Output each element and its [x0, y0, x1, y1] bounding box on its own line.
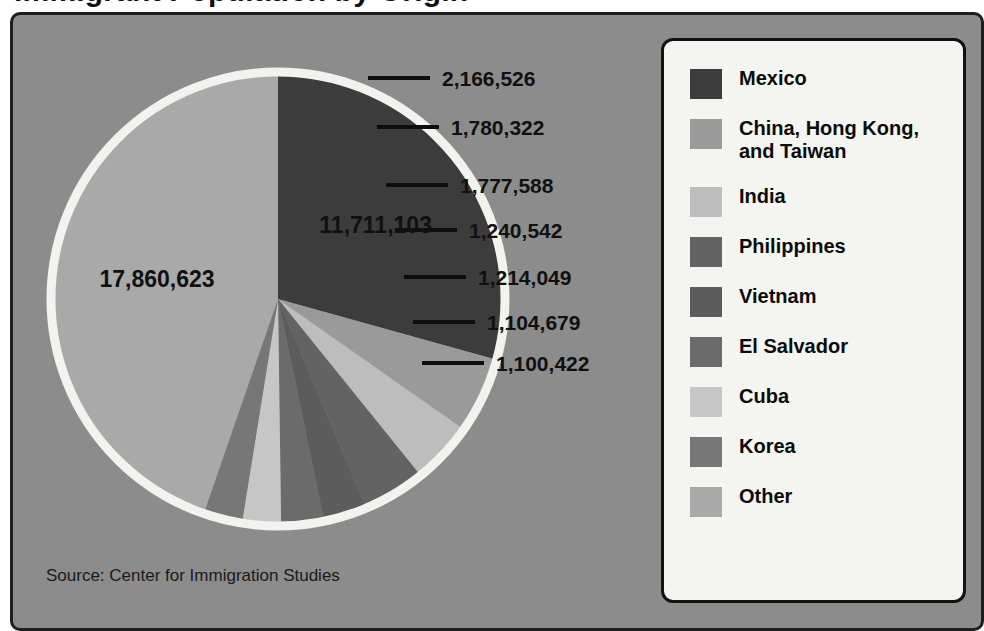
legend-item-label: Other — [739, 485, 792, 508]
pie-slice-value-label: 17,860,623 — [99, 266, 214, 292]
legend-item-label: Mexico — [739, 67, 807, 90]
legend-item[interactable]: El Salvador — [690, 335, 963, 367]
legend-swatch-icon — [690, 487, 722, 517]
pie-slice-value-label: 11,711,103 — [319, 212, 432, 238]
legend-item[interactable]: Vietnam — [690, 285, 963, 317]
legend-item[interactable]: Other — [690, 485, 963, 517]
pie-callout-value-label: 1,777,588 — [460, 174, 554, 197]
legend-item-label: Vietnam — [739, 285, 816, 308]
legend-item-label: El Salvador — [739, 335, 848, 358]
legend-item-label: China, Hong Kong, and Taiwan — [739, 117, 944, 163]
legend-swatch-icon — [690, 119, 722, 149]
pie-callout-value-label: 1,780,322 — [451, 116, 544, 139]
legend-swatch-icon — [690, 337, 722, 367]
legend-item-label: Philippines — [739, 235, 846, 258]
legend-item-label: Korea — [739, 435, 796, 458]
legend-swatch-icon — [690, 387, 722, 417]
pie-callout-value-label: 1,104,679 — [487, 311, 580, 334]
legend-swatch-icon — [690, 237, 722, 267]
pie-chart-area: 11,711,10317,860,623 2,166,5261,780,3221… — [13, 15, 673, 575]
page-title-text: Immigrant Population by Origin — [14, 0, 468, 8]
legend-item-label: India — [739, 185, 786, 208]
pie-callout-value-label: 1,100,422 — [496, 352, 589, 375]
legend-swatch-icon — [690, 287, 722, 317]
legend-item[interactable]: India — [690, 185, 963, 217]
pie-callout-value-label: 1,240,542 — [469, 219, 562, 242]
pie-callout-value-label: 1,214,049 — [478, 266, 571, 289]
chart-legend: MexicoChina, Hong Kong, and TaiwanIndiaP… — [661, 38, 966, 603]
source-note: Source: Center for Immigration Studies — [46, 566, 340, 586]
legend-swatch-icon — [690, 69, 722, 99]
legend-item[interactable]: Mexico — [690, 67, 963, 99]
legend-swatch-icon — [690, 437, 722, 467]
chart-panel: 11,711,10317,860,623 2,166,5261,780,3221… — [10, 12, 984, 631]
legend-item[interactable]: Philippines — [690, 235, 963, 267]
legend-item-label: Cuba — [739, 385, 789, 408]
legend-swatch-icon — [690, 187, 722, 217]
legend-item[interactable]: China, Hong Kong, and Taiwan — [690, 117, 963, 163]
pie-slices — [55, 76, 501, 522]
pie-callout-value-label: 2,166,526 — [442, 67, 535, 90]
pie-chart-svg: 11,711,10317,860,623 2,166,5261,780,3221… — [13, 15, 673, 575]
legend-item[interactable]: Korea — [690, 435, 963, 467]
page-title-cropped: Immigrant Population by Origin — [0, 0, 984, 10]
legend-item[interactable]: Cuba — [690, 385, 963, 417]
